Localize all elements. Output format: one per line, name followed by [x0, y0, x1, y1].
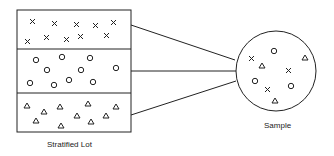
- stratified-sampling-diagram: Stratified Lot Sample: [0, 0, 334, 156]
- stratified-lot-box: [17, 10, 131, 132]
- connector-line-top: [131, 25, 235, 60]
- sample-icons: [249, 48, 308, 103]
- diagram-canvas: [0, 0, 334, 156]
- circle-stratum-icons: [27, 54, 118, 87]
- sample-label: Sample: [264, 121, 291, 130]
- stratified-lot-label: Stratified Lot: [47, 140, 92, 149]
- triangle-stratum-icons: [24, 101, 119, 128]
- connector-line-bottom: [131, 81, 236, 115]
- x-stratum-icons: [25, 19, 116, 44]
